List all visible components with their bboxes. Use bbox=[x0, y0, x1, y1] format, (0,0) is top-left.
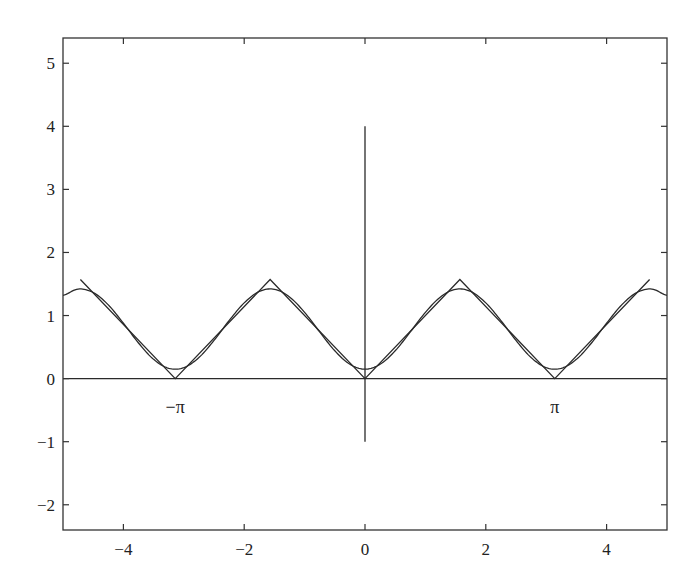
y-tick-label: −1 bbox=[37, 433, 55, 452]
y-tick-label: 4 bbox=[47, 117, 56, 136]
chart: −4−2024 −2−1012345 −ππ bbox=[0, 0, 698, 585]
y-tick-label: 2 bbox=[47, 243, 56, 262]
x-tick-label: −4 bbox=[114, 540, 133, 559]
y-tick-label: 5 bbox=[47, 54, 56, 73]
x-tick-label: 4 bbox=[602, 540, 611, 559]
x-tick-label: −2 bbox=[235, 540, 253, 559]
plot-lines bbox=[63, 126, 667, 441]
y-tick-label: 3 bbox=[47, 180, 56, 199]
pi-annotation: −π bbox=[166, 397, 185, 417]
x-tick-label: 2 bbox=[482, 540, 491, 559]
annotations: −ππ bbox=[166, 397, 560, 417]
x-tick-label: 0 bbox=[361, 540, 370, 559]
y-tick-labels: −2−1012345 bbox=[37, 54, 56, 515]
y-tick-label: 1 bbox=[47, 307, 56, 326]
y-tick-label: −2 bbox=[37, 496, 55, 515]
y-tick-label: 0 bbox=[47, 370, 56, 389]
x-tick-labels: −4−2024 bbox=[114, 540, 611, 559]
pi-annotation: π bbox=[550, 397, 559, 417]
